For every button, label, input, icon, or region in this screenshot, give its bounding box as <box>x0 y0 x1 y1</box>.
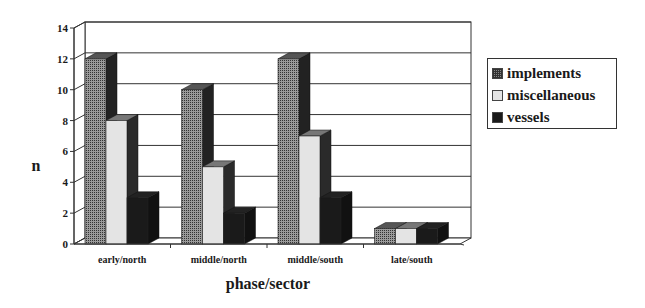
chart-plot-area: 02468101214 early/northmiddle/northmiddl… <box>0 0 645 308</box>
legend-item-implements: implements <box>492 62 616 84</box>
miscellaneous-swatch-icon <box>492 90 503 101</box>
x-category-label: early/north <box>98 254 147 265</box>
x-axis-title: phase/sector <box>226 275 310 293</box>
implements-swatch-icon <box>492 68 503 79</box>
y-axis-title: n <box>32 157 41 174</box>
legend-label: implements <box>507 65 581 82</box>
y-tick-label: 2 <box>63 207 69 219</box>
x-category-label: middle/north <box>191 254 248 265</box>
legend: implements miscellaneous vessels <box>487 58 617 129</box>
bar-vessels-middle-south <box>320 192 352 244</box>
x-axis: early/northmiddle/northmiddle/southlate/… <box>74 244 464 265</box>
y-tick-label: 8 <box>63 115 69 127</box>
y-tick-label: 4 <box>63 176 69 188</box>
legend-item-miscellaneous: miscellaneous <box>492 84 616 106</box>
y-tick-label: 10 <box>57 84 69 96</box>
y-axis: 02468101214 <box>57 22 74 250</box>
y-tick-label: 14 <box>57 22 69 34</box>
legend-label: vessels <box>507 109 550 126</box>
legend-label: miscellaneous <box>507 87 595 104</box>
y-tick-label: 12 <box>57 53 69 65</box>
vessels-swatch-icon <box>492 112 503 123</box>
legend-item-vessels: vessels <box>492 106 616 128</box>
y-tick-label: 6 <box>63 145 69 157</box>
bar-vessels-middle-north <box>224 207 256 244</box>
y-tick-label: 0 <box>63 238 69 250</box>
x-category-label: late/south <box>391 254 433 265</box>
x-category-label: middle/south <box>287 254 343 265</box>
bar-vessels-early-north <box>127 192 159 244</box>
bar-vessels-late-south <box>417 223 449 244</box>
